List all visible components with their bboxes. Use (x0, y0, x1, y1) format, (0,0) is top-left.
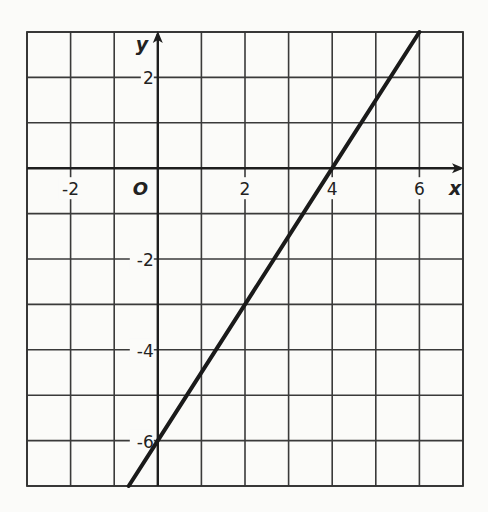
x-tick-label: -2 (62, 179, 79, 199)
x-tick-label: 6 (414, 179, 425, 199)
y-tick-label: -4 (137, 341, 154, 361)
coordinate-plane: -22462-2-4-6 x y O (0, 0, 488, 512)
x-axis-title: x (448, 177, 462, 199)
y-tick-label: 2 (143, 68, 154, 88)
grid-lines (27, 32, 463, 486)
x-tick-label: 2 (240, 179, 251, 199)
x-tick-label: 4 (327, 179, 338, 199)
origin-label: O (133, 178, 148, 199)
y-axis-title: y (136, 33, 150, 55)
y-tick-label: -2 (137, 250, 154, 270)
